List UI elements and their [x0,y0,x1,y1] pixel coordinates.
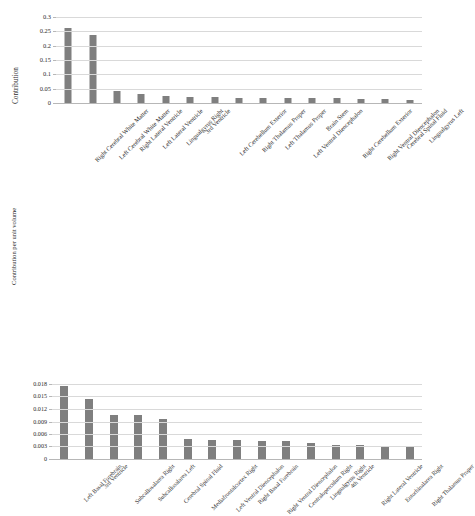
gridline [56,17,422,18]
y-axis-tick-mark [49,396,52,397]
y-axis-tick-mark [53,60,56,61]
bar [85,399,93,459]
gridline [56,60,422,61]
y-axis-tick-label: 0.25 [21,28,51,34]
bar [159,419,167,459]
bar [113,91,120,103]
chart-contribution-per-unit-volume: Contribution per unit volume Left Basal … [0,185,428,362]
bar [162,96,169,103]
bar [208,440,216,460]
x-axis-line [52,459,422,460]
plot-area-bottom: Left Basal Forebrain3rd VentricleSubcall… [52,384,422,460]
x-axis-tick-label: Right Cerebellum Exterior [360,107,412,159]
bar [65,28,72,103]
y-axis-tick-label: 0.3 [21,14,51,20]
y-axis-tick-label: 0.003 [17,443,47,449]
y-axis-title-top: Contribution [12,67,20,104]
x-axis-line [56,103,422,104]
y-axis-tick-label: 0.05 [21,86,51,92]
y-axis-tick-mark [49,446,52,447]
y-axis-tick-mark [49,409,52,410]
y-axis-tick-label: 0.015 [17,393,47,399]
bar [381,446,389,459]
y-axis-tick-mark [49,384,52,385]
y-axis-tick-label: 0 [21,100,51,106]
y-axis-tick-label: 0.018 [17,381,47,387]
y-axis-tick-mark [53,17,56,18]
gridline [52,422,422,423]
y-axis-tick-mark [49,434,52,435]
bar [233,440,241,459]
y-axis-tick-label: 0.1 [21,71,51,77]
gridline [56,89,422,90]
y-axis-tick-label: 0 [17,456,47,462]
gridline [56,74,422,75]
gridline [56,31,422,32]
bar [282,441,290,459]
gridline [52,396,422,397]
y-axis-tick-label: 0.012 [17,406,47,412]
y-axis-title-bottom: Contribution per unit volume [10,208,17,285]
y-axis-tick-mark [49,422,52,423]
bar [184,439,192,459]
gridline [52,384,422,385]
bar [138,94,145,103]
gridline [52,446,422,447]
y-axis-tick-mark [53,74,56,75]
bar [406,446,414,459]
bar [89,35,96,104]
y-axis-tick-label: 0.15 [21,57,51,63]
bar [258,441,266,459]
y-axis-tick-label: 0.006 [17,431,47,437]
x-axis-tick-label: Lingualgyrus Right [184,107,224,147]
y-axis-tick-label: 0.009 [17,419,47,425]
plot-area-top: Right Cerebral White MatterLeft Cerebral… [56,17,422,104]
gridline [56,46,422,47]
y-axis-tick-label: 0.2 [21,43,51,49]
y-axis-tick-mark [53,89,56,90]
y-axis-tick-mark [53,46,56,47]
gridline [52,434,422,435]
chart-contribution: Contribution Right Cerebral White Matter… [0,0,428,181]
gridline [52,409,422,410]
y-axis-tick-mark [53,31,56,32]
